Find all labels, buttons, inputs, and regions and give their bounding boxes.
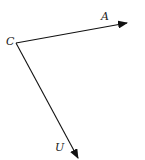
vector-diagram: C A U <box>0 0 145 160</box>
vector-ca-arrow <box>16 23 127 43</box>
label-u: U <box>55 141 65 154</box>
vector-cu-arrow <box>16 43 78 158</box>
label-c: C <box>6 35 15 48</box>
label-a: A <box>100 10 109 23</box>
